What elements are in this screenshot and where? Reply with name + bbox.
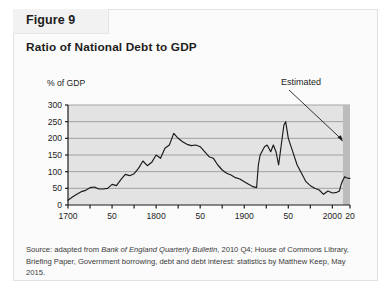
svg-text:300: 300 — [48, 100, 63, 110]
source-note: Source: adapted from Bank of England Qua… — [26, 244, 356, 279]
gridlines-group — [68, 105, 350, 205]
debt-to-gdp-line-chart: 050100150200250300 170050180050190050200… — [13, 9, 378, 281]
svg-text:2000: 2000 — [323, 211, 342, 221]
svg-text:1800: 1800 — [147, 211, 166, 221]
svg-text:50: 50 — [107, 211, 117, 221]
svg-text:20: 20 — [345, 211, 355, 221]
svg-text:100: 100 — [48, 167, 63, 177]
svg-text:0: 0 — [57, 200, 62, 210]
svg-text:250: 250 — [48, 117, 63, 127]
svg-text:50: 50 — [52, 183, 62, 193]
chart-plot-area: 050100150200250300 170050180050190050200… — [13, 9, 378, 281]
svg-text:50: 50 — [284, 211, 294, 221]
y-tick-labels-group: 050100150200250300 — [48, 100, 63, 210]
svg-text:150: 150 — [48, 150, 63, 160]
svg-text:1900: 1900 — [235, 211, 254, 221]
svg-text:1700: 1700 — [58, 211, 77, 221]
source-prefix: Source: adapted from — [26, 245, 101, 254]
source-italic-title: Bank of England Quarterly Bulletin — [101, 245, 217, 254]
estimated-band-group — [343, 105, 350, 205]
svg-text:200: 200 — [48, 133, 63, 143]
svg-text:Estimated: Estimated — [281, 77, 321, 87]
x-tick-labels-group: 170050180050190050200020 — [58, 211, 355, 221]
svg-text:50: 50 — [195, 211, 205, 221]
